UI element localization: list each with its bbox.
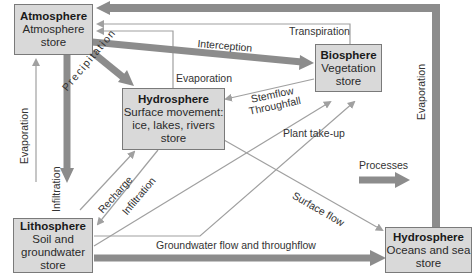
store-line: store (161, 132, 187, 145)
store-hydrosphere-ocean: Hydrosphere Oceans and sea store (385, 227, 472, 273)
store-line: store (41, 36, 67, 49)
store-line: Atmosphere (22, 23, 84, 36)
label-transpiration: Transpiration (289, 26, 350, 37)
store-line: groundwater (21, 246, 85, 259)
store-line: Soil and (32, 233, 74, 246)
label-evaporation-ocean: Evaporation (416, 64, 427, 120)
store-line: Oceans and sea (387, 244, 471, 257)
label-groundwater: Groundwater flow and throughflow (156, 240, 316, 251)
legend-processes-label: Processes (359, 160, 408, 171)
label-evaporation-soil: Evaporation (19, 108, 30, 164)
label-infiltration-main: Infiltration (51, 166, 62, 212)
store-line: ice, lakes, rivers (132, 119, 214, 132)
label-plant-takeup: Plant take-up (283, 128, 345, 139)
legend-process-arrow (359, 172, 410, 188)
store-title: Lithosphere (20, 220, 86, 233)
store-line: Surface movement: (124, 106, 224, 119)
store-line: store (416, 257, 442, 270)
store-title: Biosphere (320, 49, 376, 62)
store-title: Hydrosphere (393, 231, 464, 244)
store-title: Atmosphere (20, 10, 87, 23)
store-line: Vegetation (321, 62, 375, 75)
label-evaporation-surface: Evaporation (176, 73, 232, 84)
arrow-surface-flow (224, 140, 382, 230)
store-atmosphere: Atmosphere Atmosphere store (14, 4, 93, 55)
arrow-groundwater (94, 250, 386, 266)
store-biosphere: Biosphere Vegetation store (315, 44, 382, 92)
store-line: store (40, 259, 66, 272)
store-title: Hydrosphere (138, 93, 209, 106)
store-line: store (336, 75, 362, 88)
store-lithosphere: Lithosphere Soil and groundwater store (13, 218, 93, 273)
store-hydrosphere-surface: Hydrosphere Surface movement: ice, lakes… (122, 88, 225, 150)
